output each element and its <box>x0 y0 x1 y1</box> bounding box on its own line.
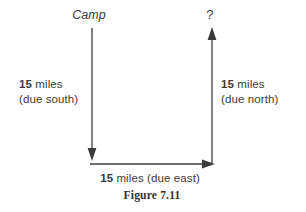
north-leg-label: 15 miles (due north) <box>221 77 278 107</box>
south-leg-unit: miles <box>32 78 63 90</box>
figure-caption: Figure 7.11 <box>52 189 252 201</box>
north-leg-direction: (due north) <box>221 92 278 107</box>
south-leg-distance: 15 <box>19 78 32 90</box>
south-leg-direction: (due south) <box>19 92 78 107</box>
east-leg-direction: (due east) <box>147 172 200 184</box>
north-leg-distance-line: 15 miles <box>221 77 278 92</box>
east-arrow <box>90 160 215 169</box>
camp-label: Camp <box>60 8 118 23</box>
north-leg-distance: 15 <box>221 78 234 90</box>
north-arrowhead-icon <box>208 27 217 40</box>
figure-container: Camp ? 15 miles (due south) 15 miles (du… <box>0 0 306 212</box>
south-leg-distance-line: 15 miles <box>19 77 78 92</box>
unknown-destination-label: ? <box>198 7 222 22</box>
north-leg-unit: miles <box>234 78 265 90</box>
east-leg-distance: 15 <box>100 172 113 184</box>
east-arrowhead-icon <box>202 160 215 169</box>
south-arrow <box>88 28 97 161</box>
south-leg-label: 15 miles (due south) <box>19 77 78 107</box>
east-leg-label: 15 miles (due east) <box>60 171 240 186</box>
north-arrow <box>208 27 217 163</box>
east-leg-unit: miles <box>113 172 147 184</box>
south-arrowhead-icon <box>88 148 97 161</box>
